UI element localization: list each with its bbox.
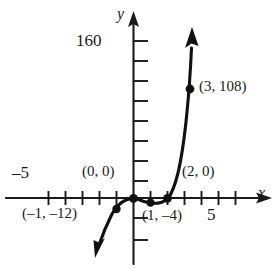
data-point-1 bbox=[146, 198, 154, 206]
data-point-3 bbox=[186, 85, 195, 94]
coordinate-plane bbox=[0, 0, 276, 268]
x-tick-label-5: 5 bbox=[207, 206, 216, 223]
data-point-2 bbox=[163, 194, 172, 203]
curve-upper-arrowhead bbox=[185, 27, 199, 48]
point-label-2-0: (2, 0) bbox=[182, 164, 215, 179]
point-label-origin: (0, 0) bbox=[82, 164, 115, 179]
point-label-3-108: (3, 108) bbox=[199, 79, 247, 94]
point-label-1-minus4: (1, –4) bbox=[142, 208, 182, 223]
y-axis-label: y bbox=[117, 6, 124, 22]
x-axis-label: x bbox=[258, 185, 265, 201]
y-tick-label-160: 160 bbox=[76, 32, 102, 49]
x-tick-label-minus5: –5 bbox=[12, 164, 29, 181]
point-label-minus1-minus12: (–1, –12) bbox=[22, 206, 77, 221]
data-point-minus1 bbox=[112, 205, 120, 213]
data-point-origin bbox=[129, 194, 138, 203]
graph-figure: y x 160 –5 5 (0, 0) (–1, –12) (1, –4) (2… bbox=[0, 0, 276, 268]
